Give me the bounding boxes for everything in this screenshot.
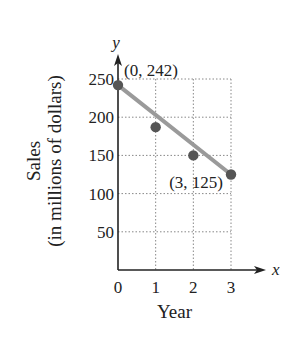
annotation-start-point: (0, 242): [124, 61, 178, 80]
x-axis-variable: x: [271, 260, 280, 279]
y-tick-label: 100: [89, 185, 115, 204]
y-axis-title: Sales: [23, 141, 44, 181]
model-line: [118, 85, 231, 174]
data-point: [113, 80, 123, 90]
annotations: (0, 242)(3, 125): [124, 61, 223, 191]
data-point: [226, 169, 236, 179]
sales-chart: yx 012350100150200250 (0, 242)(3, 125) Y…: [0, 0, 293, 344]
x-tick-label: 0: [114, 278, 123, 297]
y-axis-subtitle: (in millions of dollars): [44, 75, 66, 247]
y-axis-variable: y: [110, 33, 120, 52]
y-tick-label: 250: [89, 70, 115, 89]
x-tick-label: 2: [189, 278, 198, 297]
x-tick-label: 1: [151, 278, 160, 297]
annotation-end-point: (3, 125): [169, 173, 223, 192]
data-point: [150, 122, 160, 132]
y-tick-label: 200: [89, 108, 115, 127]
y-tick-label: 50: [97, 223, 114, 242]
data-point: [188, 150, 198, 160]
data-series: [113, 80, 236, 180]
y-tick-label: 150: [89, 146, 115, 165]
x-tick-label: 3: [227, 278, 236, 297]
x-axis-title: Year: [157, 301, 193, 322]
